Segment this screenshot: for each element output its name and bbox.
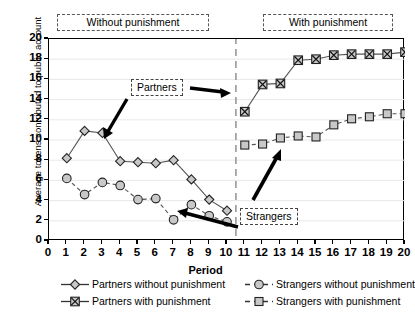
- data-point: [152, 194, 161, 203]
- x-tick-label: 15: [306, 247, 324, 259]
- y-tick-label: 4: [16, 194, 42, 206]
- legend-label: Partners with punishment: [92, 295, 210, 307]
- x-tick-label: 0: [39, 247, 57, 259]
- data-point: [187, 200, 196, 209]
- callout-strangers: Strangers: [240, 208, 298, 225]
- data-point: [169, 215, 178, 224]
- x-tick-label: 5: [128, 247, 146, 259]
- x-tick-label: 8: [181, 247, 199, 259]
- x-tick-label: 14: [288, 247, 306, 259]
- data-point: [294, 132, 302, 140]
- y-tick-label: 12: [16, 113, 42, 125]
- data-point: [116, 181, 125, 190]
- diamond-marker: [60, 278, 90, 290]
- y-tick-label: 2: [16, 214, 42, 226]
- data-point: [401, 110, 405, 118]
- legend-label: Partners without punishment: [92, 278, 225, 290]
- data-point: [330, 121, 338, 129]
- x-tick-label: 11: [235, 247, 253, 259]
- data-point: [80, 126, 89, 135]
- x-tick-label: 17: [342, 247, 360, 259]
- x-tick-label: 6: [146, 247, 164, 259]
- data-point: [62, 154, 71, 163]
- series-line: [67, 131, 227, 211]
- series-partners-with-punishment: [241, 48, 406, 116]
- x-tick-label: 2: [75, 247, 93, 259]
- series-strangers-with-punishment: [241, 110, 405, 149]
- y-tick-label: 16: [16, 72, 42, 84]
- x-tick-label: 7: [164, 247, 182, 259]
- series-line: [245, 52, 405, 112]
- y-tick-label: 0: [16, 234, 42, 246]
- x-tick-label: 20: [395, 247, 413, 259]
- legend-item[interactable]: Strangers with punishment: [244, 293, 400, 308]
- data-point: [348, 115, 356, 123]
- data-point: [98, 178, 107, 187]
- data-point: [70, 280, 79, 289]
- x-tick-label: 16: [324, 247, 342, 259]
- legend-item[interactable]: Partners with punishment: [60, 293, 210, 308]
- x-tick-label: 12: [253, 247, 271, 259]
- plot-area: [48, 38, 404, 240]
- series-canvas: [49, 39, 405, 241]
- y-tick-label: 8: [16, 153, 42, 165]
- data-point: [383, 110, 391, 118]
- circle-marker: [244, 278, 274, 290]
- x-tick-label: 9: [199, 247, 217, 259]
- x-tick-label: 1: [57, 247, 75, 259]
- square-marker: [244, 295, 274, 307]
- legend-label: Strangers without punishment: [276, 278, 415, 290]
- y-tick-label: 20: [16, 32, 42, 44]
- x-tick-label: 19: [377, 247, 395, 259]
- data-point: [98, 128, 107, 137]
- x-tick-label: 3: [92, 247, 110, 259]
- x-tick-label: 10: [217, 247, 235, 259]
- data-point: [205, 211, 214, 220]
- data-point: [365, 113, 373, 121]
- legend-item[interactable]: Strangers without punishment: [244, 276, 415, 291]
- y-tick-label: 10: [16, 133, 42, 145]
- x-square-marker: [60, 295, 90, 307]
- data-point: [116, 157, 125, 166]
- data-point: [80, 190, 89, 199]
- data-point: [255, 280, 264, 289]
- legend-item[interactable]: Partners without punishment: [60, 276, 225, 291]
- data-point: [134, 195, 143, 204]
- x-tick-label: 4: [110, 247, 128, 259]
- x-tick-label: 13: [270, 247, 288, 259]
- legend-label: Strangers with punishment: [276, 295, 400, 307]
- data-point: [222, 206, 231, 215]
- data-point: [63, 174, 72, 183]
- data-point: [223, 218, 232, 227]
- data-point: [241, 141, 249, 149]
- data-point: [255, 298, 263, 306]
- x-tick-label: 18: [359, 247, 377, 259]
- y-tick-label: 6: [16, 173, 42, 185]
- y-tick-label: 14: [16, 93, 42, 105]
- y-tick-label: 18: [16, 52, 42, 64]
- data-point: [276, 134, 284, 142]
- data-point: [312, 133, 320, 141]
- x-axis-title: Period: [0, 264, 411, 276]
- chart-legend: Partners without punishmentStrangers wit…: [48, 276, 408, 312]
- data-point: [259, 140, 267, 148]
- callout-partners: Partners: [131, 79, 183, 96]
- data-point: [133, 158, 142, 167]
